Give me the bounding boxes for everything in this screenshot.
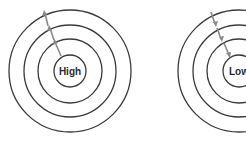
label-high: High bbox=[59, 66, 81, 77]
label-low: Low bbox=[229, 66, 246, 77]
concentric-diagram: High Low bbox=[0, 0, 246, 148]
figure-high: High bbox=[9, 10, 131, 132]
figure-low: Low bbox=[178, 10, 246, 132]
